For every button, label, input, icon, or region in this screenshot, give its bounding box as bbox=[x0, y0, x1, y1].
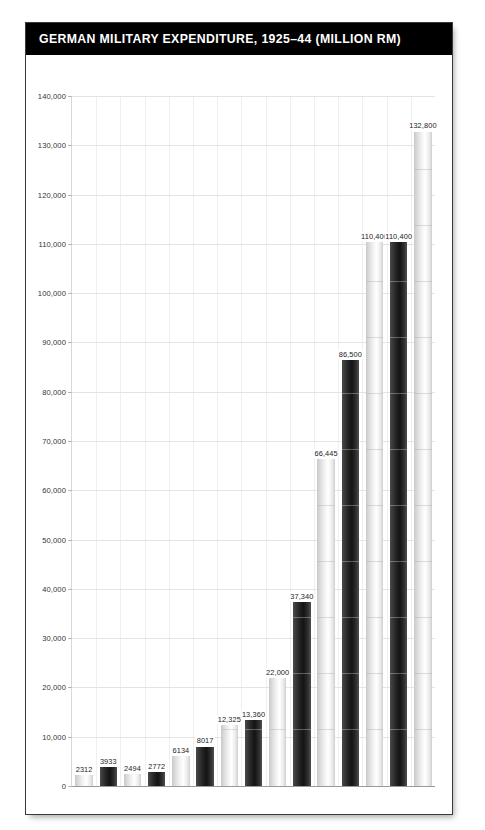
y-axis-tick-mark bbox=[68, 244, 72, 245]
bar-band bbox=[414, 561, 431, 562]
y-axis-tick-label: 10,000 bbox=[42, 732, 66, 741]
bar-1939 bbox=[293, 602, 310, 786]
y-axis-tick-label: 110,000 bbox=[38, 239, 66, 248]
y-axis-tick-mark bbox=[68, 96, 72, 97]
y-axis-tick-label: 50,000 bbox=[42, 535, 66, 544]
y-axis-tick-label: 120,000 bbox=[38, 190, 66, 199]
bar-1943 bbox=[390, 242, 407, 786]
y-axis-tick-label: 140,000 bbox=[38, 92, 66, 101]
bar-1933 bbox=[148, 772, 165, 786]
bar-band bbox=[414, 225, 431, 226]
bar-band bbox=[390, 729, 407, 730]
bar-band bbox=[366, 505, 383, 506]
bar-band bbox=[366, 449, 383, 450]
bar-1935 bbox=[196, 747, 213, 787]
bar-band bbox=[293, 617, 310, 618]
bar-band bbox=[390, 505, 407, 506]
bar-band bbox=[317, 673, 334, 674]
bar-1925 bbox=[75, 775, 92, 786]
bar-band bbox=[366, 729, 383, 730]
bar-value-label-1943: 110,400 bbox=[384, 232, 413, 241]
bar-band bbox=[269, 729, 286, 730]
bar-band bbox=[317, 561, 334, 562]
y-axis-tick-label: 100,000 bbox=[38, 289, 66, 298]
bar-value-label-1925: 2312 bbox=[75, 765, 94, 774]
bar-band bbox=[245, 729, 262, 730]
bar-band bbox=[366, 617, 383, 618]
y-axis-tick-mark bbox=[68, 342, 72, 343]
gridline bbox=[72, 195, 435, 196]
y-axis-tick-label: 60,000 bbox=[42, 486, 66, 495]
gridline bbox=[72, 145, 435, 146]
bar-value-label-1930: 3933 bbox=[99, 757, 118, 766]
bar-value-label-1936: 12,325 bbox=[217, 715, 242, 724]
bar-value-label-1932: 2494 bbox=[123, 764, 142, 773]
y-axis-tick-label: 90,000 bbox=[42, 338, 66, 347]
bar-band bbox=[317, 617, 334, 618]
bar-1937 bbox=[245, 720, 262, 786]
bar-band bbox=[293, 729, 310, 730]
bar-1940 bbox=[317, 459, 334, 786]
page-title: GERMAN MILITARY EXPENDITURE, 1925–44 (MI… bbox=[39, 32, 401, 46]
bar-value-label-1941: 86,500 bbox=[338, 350, 363, 359]
plot-area: 010,00020,00030,00040,00050,00060,00070,… bbox=[71, 96, 435, 787]
bar-1941 bbox=[342, 360, 359, 786]
y-axis-tick-mark bbox=[68, 441, 72, 442]
y-axis-tick-label: 130,000 bbox=[38, 141, 66, 150]
bar-band bbox=[414, 449, 431, 450]
bar-band bbox=[414, 729, 431, 730]
bar-band bbox=[390, 337, 407, 338]
bar-band bbox=[414, 169, 431, 170]
y-axis-tick-mark bbox=[68, 145, 72, 146]
y-axis-tick-label: 70,000 bbox=[42, 437, 66, 446]
bar-band bbox=[317, 729, 334, 730]
bar-value-label-1935: 8017 bbox=[196, 736, 215, 745]
y-axis-tick-mark bbox=[68, 392, 72, 393]
bar-1930 bbox=[100, 767, 117, 786]
bar-1934 bbox=[172, 756, 189, 786]
bar-band bbox=[390, 449, 407, 450]
bar-band bbox=[414, 281, 431, 282]
bar-band bbox=[342, 505, 359, 506]
y-axis-tick-mark bbox=[68, 195, 72, 196]
y-axis-tick-label: 0 bbox=[62, 782, 66, 791]
bar-band bbox=[390, 617, 407, 618]
y-axis-tick-mark bbox=[68, 638, 72, 639]
y-axis-tick-label: 30,000 bbox=[42, 634, 66, 643]
y-axis-tick-label: 20,000 bbox=[42, 683, 66, 692]
bar-value-label-1939: 37,340 bbox=[289, 592, 314, 601]
bar-band bbox=[366, 337, 383, 338]
bar-band bbox=[342, 673, 359, 674]
bar-1944 bbox=[414, 132, 431, 787]
bar-1938 bbox=[269, 678, 286, 786]
y-axis-tick-label: 80,000 bbox=[42, 387, 66, 396]
chart-canvas: 010,00020,00030,00040,00050,00060,00070,… bbox=[26, 55, 452, 816]
bar-value-label-1937: 13,360 bbox=[241, 710, 266, 719]
y-axis-tick-mark bbox=[68, 687, 72, 688]
bar-band bbox=[293, 673, 310, 674]
bar-band bbox=[414, 617, 431, 618]
bar-value-label-1938: 22,000 bbox=[265, 668, 290, 677]
y-axis-tick-mark bbox=[68, 293, 72, 294]
bar-value-label-1944: 132,800 bbox=[408, 121, 437, 130]
gridline bbox=[72, 96, 435, 97]
y-axis-tick-mark bbox=[68, 490, 72, 491]
bar-band bbox=[390, 393, 407, 394]
bar-band bbox=[366, 561, 383, 562]
bar-band bbox=[342, 561, 359, 562]
y-axis-tick-mark bbox=[68, 589, 72, 590]
bar-1942 bbox=[366, 242, 383, 786]
bar-band bbox=[414, 505, 431, 506]
bar-band bbox=[390, 281, 407, 282]
bar-band bbox=[342, 449, 359, 450]
y-axis-tick-label: 40,000 bbox=[42, 584, 66, 593]
y-axis-tick-mark bbox=[68, 737, 72, 738]
bar-band bbox=[317, 505, 334, 506]
bar-band bbox=[366, 393, 383, 394]
bar-value-label-1933: 2772 bbox=[147, 762, 166, 771]
bar-band bbox=[366, 281, 383, 282]
bar-value-label-1934: 6134 bbox=[171, 746, 190, 755]
bar-1932 bbox=[124, 774, 141, 786]
bar-band bbox=[390, 561, 407, 562]
bar-band bbox=[390, 673, 407, 674]
